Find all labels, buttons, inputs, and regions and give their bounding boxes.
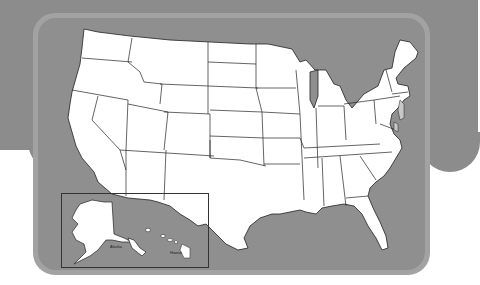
- map-card-inner: Alaska Hawaii: [38, 18, 425, 270]
- hawaii-islands: [146, 228, 191, 258]
- map-card: Alaska Hawaii: [33, 13, 430, 275]
- hawaii-label: Hawaii: [170, 250, 182, 255]
- alaska-hawaii-inset: Alaska Hawaii: [61, 193, 209, 268]
- alaska-panhandle: [128, 238, 146, 256]
- alaska-label: Alaska: [110, 244, 122, 249]
- de-highlight: [394, 122, 398, 132]
- alaska-shape: [72, 200, 132, 264]
